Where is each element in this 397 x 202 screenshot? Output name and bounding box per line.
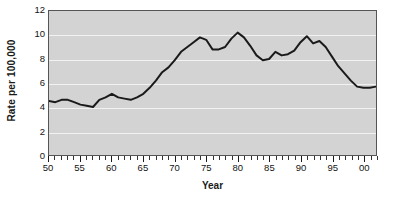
x-tick-label: 55: [69, 163, 91, 173]
y-axis-title-text: Rate per 100,000: [6, 39, 17, 121]
x-minor-tick: [156, 156, 157, 160]
series-polyline: [49, 33, 376, 107]
x-tick-label: 65: [132, 163, 154, 173]
x-minor-tick: [137, 156, 138, 160]
x-minor-tick: [288, 156, 289, 160]
x-minor-tick: [232, 156, 233, 160]
x-minor-tick: [307, 156, 308, 160]
x-minor-tick: [61, 156, 62, 160]
y-tick-label: 4: [29, 102, 45, 112]
x-minor-tick: [162, 156, 163, 160]
x-tick-label: 60: [100, 163, 122, 173]
x-minor-tick: [326, 156, 327, 160]
x-tick-label: 70: [164, 163, 186, 173]
x-minor-tick: [73, 156, 74, 160]
x-minor-tick: [187, 156, 188, 160]
x-minor-tick: [181, 156, 182, 160]
x-minor-tick: [358, 156, 359, 160]
x-tick-label: 00: [353, 163, 375, 173]
y-tick-label: 12: [29, 5, 45, 15]
x-minor-tick: [276, 156, 277, 160]
x-axis-title: Year: [48, 180, 377, 191]
x-minor-tick: [251, 156, 252, 160]
x-tick-label: 90: [290, 163, 312, 173]
x-tick-label: 75: [195, 163, 217, 173]
x-minor-tick: [314, 156, 315, 160]
x-minor-tick: [54, 156, 55, 160]
x-minor-tick: [377, 156, 378, 160]
x-minor-tick: [200, 156, 201, 160]
x-minor-tick: [225, 156, 226, 160]
x-minor-tick: [86, 156, 87, 160]
x-minor-tick: [194, 156, 195, 160]
plot-area: [48, 10, 377, 156]
x-minor-tick: [105, 156, 106, 160]
x-tick-label: 80: [227, 163, 249, 173]
y-tick-label: 8: [29, 54, 45, 64]
y-axis-title: Rate per 100,000: [0, 0, 22, 160]
x-minor-tick: [282, 156, 283, 160]
y-tick-label: 6: [29, 78, 45, 88]
x-tick-label: 85: [258, 163, 280, 173]
x-minor-tick: [219, 156, 220, 160]
x-minor-tick: [118, 156, 119, 160]
x-minor-tick: [149, 156, 150, 160]
y-tick-label: 2: [29, 127, 45, 137]
x-minor-tick: [345, 156, 346, 160]
x-minor-tick: [67, 156, 68, 160]
x-minor-tick: [263, 156, 264, 160]
x-minor-tick: [320, 156, 321, 160]
x-minor-tick: [124, 156, 125, 160]
x-minor-tick: [339, 156, 340, 160]
x-minor-tick: [92, 156, 93, 160]
x-minor-tick: [99, 156, 100, 160]
x-minor-tick: [168, 156, 169, 160]
series-line: [49, 11, 376, 155]
x-minor-tick: [244, 156, 245, 160]
x-tick-label: 50: [37, 163, 59, 173]
x-minor-tick: [130, 156, 131, 160]
x-minor-tick: [295, 156, 296, 160]
y-tick-label: 10: [29, 29, 45, 39]
x-tick-label: 95: [322, 163, 344, 173]
x-minor-tick: [257, 156, 258, 160]
x-minor-tick: [352, 156, 353, 160]
x-axis-tick-labels: 5055606570758085909500: [48, 163, 377, 177]
line-chart: Rate per 100,000 121086420 5055606570758…: [0, 0, 397, 202]
y-tick-label: 0: [29, 151, 45, 161]
x-minor-tick: [213, 156, 214, 160]
x-minor-tick: [371, 156, 372, 160]
